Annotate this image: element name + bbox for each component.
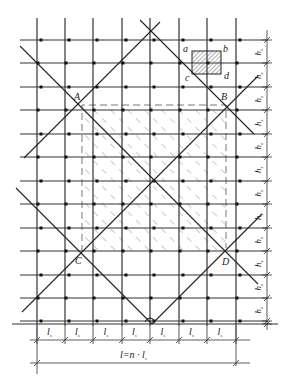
grid-point (122, 156, 125, 159)
grid-point (239, 180, 242, 183)
grid-point (239, 39, 242, 42)
grid-point (93, 203, 96, 206)
grid-point (153, 133, 156, 136)
grid-point (236, 203, 239, 206)
grid-point (68, 227, 71, 230)
row-height-label: hs (253, 307, 264, 314)
grid-point (236, 109, 239, 112)
grid-point (40, 227, 43, 230)
grid-point (150, 250, 153, 253)
grid-point (37, 203, 40, 206)
grid-point (210, 86, 213, 89)
grid-point (153, 39, 156, 42)
grid-point (236, 156, 239, 159)
grid-point (93, 250, 96, 253)
grid-point (182, 180, 185, 183)
grid-point (207, 109, 210, 112)
grid-point (125, 227, 128, 230)
row-height-label: hs (253, 214, 264, 221)
grid-point (150, 203, 153, 206)
grid-point (239, 274, 242, 277)
grid-point (125, 39, 128, 42)
grid-point (153, 227, 156, 230)
column-dimension-chain: lslslslslslsls l=n · ls (30, 326, 250, 374)
grid-point (122, 203, 125, 206)
grid-point (68, 39, 71, 42)
grid-point (207, 297, 210, 300)
grid-point (122, 250, 125, 253)
grid-point (179, 250, 182, 253)
grid-point (93, 109, 96, 112)
row-height-label: hs (253, 143, 264, 150)
grid-point (182, 227, 185, 230)
point-label-b: B (221, 91, 227, 102)
column-width-label: ls (161, 326, 166, 338)
grid-point (153, 86, 156, 89)
corner-label-c: c (185, 72, 190, 83)
grid-point (125, 180, 128, 183)
grid-point (68, 274, 71, 277)
grid-point (239, 320, 242, 323)
grid-point (236, 62, 239, 65)
grid-point (125, 86, 128, 89)
grid-point (210, 133, 213, 136)
grid-point (207, 203, 210, 206)
grid-point (210, 274, 213, 277)
grid-point (40, 274, 43, 277)
grid-point (65, 156, 68, 159)
row-height-label: hs (253, 120, 264, 127)
grid-point (68, 180, 71, 183)
grid-point (96, 274, 99, 277)
grid-point (68, 320, 71, 323)
grid-point (150, 156, 153, 159)
grid-point (150, 109, 153, 112)
grid-point (68, 86, 71, 89)
grid-point (207, 250, 210, 253)
row-height-label: hs (253, 261, 264, 268)
corner-label-d: d (224, 70, 230, 81)
grid-point (122, 62, 125, 65)
grid-point (96, 227, 99, 230)
grid-point (207, 156, 210, 159)
total-length-label: l=n · ls (120, 349, 147, 361)
grid-point (40, 86, 43, 89)
corner-label-b: b (223, 43, 228, 54)
grid-point (65, 203, 68, 206)
grid-point (239, 86, 242, 89)
grid-point (210, 180, 213, 183)
grid-point (65, 62, 68, 65)
grid-point (40, 320, 43, 323)
grid-point (182, 86, 185, 89)
grid-point (40, 180, 43, 183)
grid-point (65, 109, 68, 112)
grid-point (122, 109, 125, 112)
point-label-a: A (73, 91, 81, 102)
grid-point (210, 320, 213, 323)
point-label-d: D (221, 256, 230, 267)
grid-point (182, 274, 185, 277)
grid-point (93, 62, 96, 65)
grid-point (210, 39, 213, 42)
grid-point (236, 297, 239, 300)
grid-point (236, 250, 239, 253)
grid-point (150, 62, 153, 65)
grid-point (37, 109, 40, 112)
grid-point (40, 39, 43, 42)
column-width-label: ls (132, 326, 137, 338)
column-width-label: ls (47, 326, 52, 338)
grid-point (182, 320, 185, 323)
column-width-label: ls (75, 326, 80, 338)
row-height-label: hs (253, 237, 264, 244)
grid-point (96, 133, 99, 136)
row-height-label: hs (253, 167, 264, 174)
grid-point (93, 297, 96, 300)
row-height-label: hs (253, 49, 264, 56)
grid-point (182, 39, 185, 42)
grid-point (65, 297, 68, 300)
grid-point (125, 133, 128, 136)
grid-point (37, 250, 40, 253)
grid-point (239, 227, 242, 230)
column-width-label: ls (189, 326, 194, 338)
grid-point (239, 133, 242, 136)
diagram-figure: a b c d A B C D hshshshshshshshshshshshs… (0, 0, 293, 386)
